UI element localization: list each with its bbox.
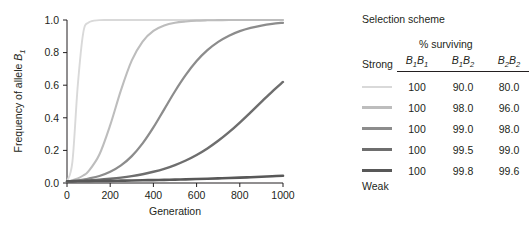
y-tick-label: 0.4	[44, 112, 59, 124]
y-tick-label: 0.8	[44, 46, 59, 58]
y-tick-label: 0.2	[44, 144, 59, 156]
svg-text:Frequency of allele B1: Frequency of allele B1	[12, 50, 27, 153]
legend-value-cell: 98.0	[440, 102, 486, 114]
legend-row: 10090.080.0	[362, 76, 532, 97]
legend-row: 10099.599.0	[362, 139, 532, 160]
legend-value-group: 10098.096.0	[394, 102, 532, 114]
legend-title: Selection scheme	[362, 13, 445, 25]
header-divider-rule	[397, 71, 529, 72]
y-tick-label: 0.0	[44, 177, 59, 189]
legend-value-cell: 99.0	[440, 123, 486, 135]
legend-panel: Selection scheme % surviving B1B1 B1B2 B…	[362, 0, 532, 228]
legend-line-swatch	[362, 148, 392, 151]
y-tick-label: 1.0	[44, 14, 59, 26]
weak-selection-label: Weak	[362, 180, 389, 192]
legend-line-swatch	[362, 169, 392, 172]
x-tick-label: 400	[145, 189, 163, 201]
x-axis-ticks: 02004006008001000	[64, 183, 295, 201]
chart-panel: 0.00.20.40.60.81.0 02004006008001000 Fre…	[0, 0, 300, 228]
legend-value-cell: 100	[394, 165, 440, 177]
genotype-header-row: B1B1 B1B2 B2B2	[394, 54, 532, 69]
legend-value-cell: 98.0	[486, 123, 532, 135]
legend-rows: 10090.080.010098.096.010099.098.010099.5…	[362, 76, 532, 181]
legend-value-cell: 99.8	[440, 165, 486, 177]
legend-line-swatch	[362, 86, 392, 88]
x-tick-label: 0	[64, 189, 70, 201]
legend-row: 10099.098.0	[362, 118, 532, 139]
legend-value-group: 10090.080.0	[394, 81, 532, 93]
legend-value-cell: 99.5	[440, 144, 486, 156]
y-axis-title: Frequency of allele B1	[12, 50, 27, 153]
legend-swatch-cell	[362, 127, 394, 129]
legend-value-cell: 99.6	[486, 165, 532, 177]
legend-value-cell: 80.0	[486, 81, 532, 93]
genotype-header-b2b2: B2B2	[486, 54, 532, 69]
figure-allele-frequency-chart: 0.00.20.40.60.81.0 02004006008001000 Fre…	[0, 0, 532, 228]
legend-value-cell: 100	[394, 102, 440, 114]
strong-selection-label: Strong	[362, 58, 393, 70]
genotype-label: B1B2	[452, 54, 474, 66]
genotype-label: B1B1	[406, 54, 428, 66]
legend-value-group: 10099.899.6	[394, 165, 532, 177]
line-chart-svg: 0.00.20.40.60.81.0 02004006008001000 Fre…	[0, 0, 300, 228]
legend-line-swatch	[362, 127, 392, 129]
x-axis-title: Generation	[149, 205, 201, 217]
legend-value-cell: 100	[394, 123, 440, 135]
legend-value-cell: 100	[394, 144, 440, 156]
data-curve	[67, 20, 283, 181]
genotype-label: B2B2	[498, 54, 520, 66]
x-tick-label: 600	[188, 189, 206, 201]
x-tick-label: 1000	[271, 189, 295, 201]
y-axis-ticks: 0.00.20.40.60.81.0	[44, 14, 67, 189]
legend-swatch-cell	[362, 106, 394, 108]
legend-row: 10098.096.0	[362, 97, 532, 118]
x-tick-label: 200	[101, 189, 119, 201]
genotype-header-b1b1: B1B1	[394, 54, 440, 69]
data-curve	[67, 20, 283, 181]
legend-value-cell: 96.0	[486, 102, 532, 114]
data-curve	[67, 23, 283, 182]
percent-surviving-header: % surviving	[419, 38, 473, 50]
x-tick-label: 800	[231, 189, 249, 201]
legend-value-cell: 100	[394, 81, 440, 93]
y-tick-label: 0.6	[44, 79, 59, 91]
data-curve	[67, 82, 283, 181]
legend-row: 10099.899.6	[362, 160, 532, 181]
legend-line-swatch	[362, 106, 392, 108]
legend-value-group: 10099.599.0	[394, 144, 532, 156]
legend-swatch-cell	[362, 148, 394, 151]
legend-value-group: 10099.098.0	[394, 123, 532, 135]
legend-swatch-cell	[362, 169, 394, 172]
legend-swatch-cell	[362, 86, 394, 88]
legend-value-cell: 99.0	[486, 144, 532, 156]
legend-value-cell: 90.0	[440, 81, 486, 93]
genotype-header-b1b2: B1B2	[440, 54, 486, 69]
data-curves	[67, 20, 283, 181]
